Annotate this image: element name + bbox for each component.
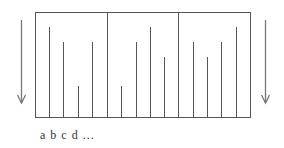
periodic-lines-diagram <box>0 0 284 148</box>
left-down-arrow-icon <box>18 20 26 103</box>
sequence-label: a b c d ... <box>40 128 95 143</box>
section-dividers <box>108 12 179 118</box>
right-down-arrow-icon <box>262 20 270 103</box>
outer-box <box>36 13 251 118</box>
vertical-lines <box>50 27 237 118</box>
down-arrows <box>18 20 270 103</box>
